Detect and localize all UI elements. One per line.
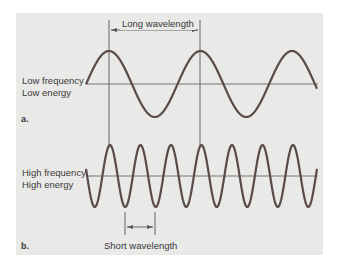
low-energy-text: Low energy xyxy=(22,87,84,99)
high-frequency-label: High frequency High energy xyxy=(22,167,86,190)
high-frequency-text: High frequency xyxy=(22,167,86,179)
arrowhead-right-icon xyxy=(147,225,153,229)
panel-a-tag: a. xyxy=(21,114,29,124)
wave-diagram xyxy=(0,0,337,270)
arrowhead-left-icon xyxy=(127,225,133,229)
low-frequency-label: Low frequency Low energy xyxy=(22,75,84,98)
short-wavelength-label: Short wavelength xyxy=(104,240,177,252)
arrowhead-left-icon xyxy=(111,28,117,32)
high-energy-text: High energy xyxy=(22,179,86,191)
panel-b-tag: b. xyxy=(21,241,29,251)
long-wavelength-label: Long wavelength xyxy=(120,18,196,30)
low-frequency-text: Low frequency xyxy=(22,75,84,87)
